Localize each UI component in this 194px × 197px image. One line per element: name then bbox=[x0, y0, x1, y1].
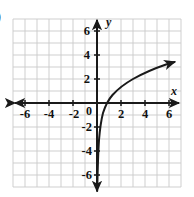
graph-figure: ) bbox=[0, 0, 194, 197]
x-tick-label-6: 6 bbox=[166, 107, 172, 121]
y-tick-label-6: 6 bbox=[84, 24, 90, 38]
x-tick-label-4: 4 bbox=[142, 107, 149, 121]
origin-label: 0 bbox=[86, 104, 92, 118]
x-tick-label-2: 2 bbox=[118, 107, 124, 121]
x-axis-label: x bbox=[170, 84, 177, 98]
x-tick-label-neg6: -6 bbox=[20, 107, 30, 121]
y-tick-label-neg4: -4 bbox=[82, 144, 93, 158]
y-axis-label: y bbox=[104, 15, 112, 29]
y-tick-label-2: 2 bbox=[84, 72, 90, 86]
coordinate-plane: 6 4 2 -2 -4 -6 -6 -4 -2 2 4 6 0 y x bbox=[0, 0, 194, 197]
item-marker-label: ) bbox=[0, 8, 1, 25]
y-tick-label-neg2: -2 bbox=[82, 120, 92, 134]
x-tick-label-neg4: -4 bbox=[44, 107, 55, 121]
y-tick-label-4: 4 bbox=[84, 48, 91, 62]
x-tick-label-neg2: -2 bbox=[69, 107, 79, 121]
y-tick-label-neg6: -6 bbox=[82, 168, 92, 182]
